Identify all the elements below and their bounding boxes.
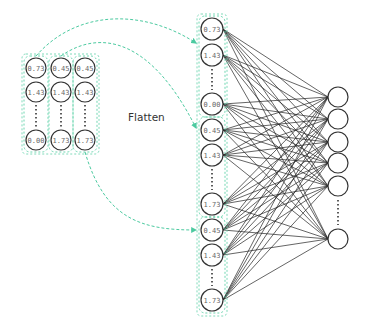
neuron-value: 0.45 xyxy=(77,65,94,73)
neuron-circle xyxy=(328,109,348,129)
input-neuron: 0.73 xyxy=(26,58,46,78)
neuron-value: 0.45 xyxy=(204,227,221,235)
neuron-value: 1.43 xyxy=(77,89,94,97)
flattened-neuron: 0.73 xyxy=(201,18,223,40)
edge xyxy=(223,104,328,186)
input-neuron: 1.43 xyxy=(75,82,95,102)
flatten-label: Flatten xyxy=(128,111,165,123)
edge xyxy=(223,142,328,230)
neuron-circle xyxy=(328,132,348,152)
neuron-value: 1.43 xyxy=(28,89,45,97)
neuron-value: 1.73 xyxy=(77,137,94,145)
input-neuron: 0.45 xyxy=(75,58,95,78)
input-neuron: 1.73 xyxy=(75,130,95,150)
flattened-neuron: 1.73 xyxy=(201,289,223,311)
flattened-neuron: 0.00 xyxy=(201,93,223,115)
output-neuron xyxy=(328,109,348,129)
fully-connected-edges xyxy=(223,29,328,300)
neuron-circle xyxy=(328,229,348,249)
edge xyxy=(223,142,328,300)
neuron-value: 1.73 xyxy=(204,201,221,209)
neuron-value: 1.43 xyxy=(204,252,221,260)
flattened-neuron: 0.45 xyxy=(201,119,223,141)
flatten-arrow xyxy=(85,152,196,230)
flatten-arrows xyxy=(36,19,196,230)
edge xyxy=(223,142,328,155)
flattened-neuron: 1.73 xyxy=(201,193,223,215)
input-neuron: 0.45 xyxy=(51,58,71,78)
dashed-groups xyxy=(22,14,227,316)
neuron-value: 1.43 xyxy=(204,152,221,160)
input-neuron: 1.73 xyxy=(51,130,71,150)
output-neuron xyxy=(328,132,348,152)
flatten-diagram: 0.731.430.000.451.431.730.451.431.730.73… xyxy=(0,0,368,333)
edge xyxy=(223,155,328,239)
edge xyxy=(223,155,328,186)
output-neuron xyxy=(328,176,348,196)
output-neuron xyxy=(328,87,348,107)
edge xyxy=(223,55,328,142)
neuron-value: 1.73 xyxy=(204,297,221,305)
neuron-value: 0.00 xyxy=(204,101,221,109)
neuron-value: 0.73 xyxy=(204,26,221,34)
neuron-value: 0.73 xyxy=(28,65,45,73)
neuron-circle xyxy=(328,153,348,173)
edge xyxy=(223,29,328,186)
neuron-value: 1.43 xyxy=(204,52,221,60)
input-neuron: 1.43 xyxy=(51,82,71,102)
neuron-value: 1.73 xyxy=(53,137,70,145)
input-neuron: 0.00 xyxy=(26,130,46,150)
neuron-value: 0.45 xyxy=(53,65,70,73)
edge xyxy=(223,29,328,239)
flattened-neuron: 1.43 xyxy=(201,144,223,166)
neuron-value: 1.43 xyxy=(53,89,70,97)
output-neuron xyxy=(328,229,348,249)
neuron-value: 0.45 xyxy=(204,127,221,135)
edge xyxy=(223,55,328,97)
flattened-neuron: 1.43 xyxy=(201,244,223,266)
neuron-circle xyxy=(328,87,348,107)
flatten-arrow xyxy=(36,19,196,56)
neuron-circle xyxy=(328,176,348,196)
input-neuron: 1.43 xyxy=(26,82,46,102)
flattened-neuron: 0.45 xyxy=(201,219,223,241)
flattened-neuron: 1.43 xyxy=(201,44,223,66)
edge xyxy=(223,186,328,300)
neurons: 0.731.430.000.451.431.730.451.431.730.73… xyxy=(26,18,348,311)
output-neuron xyxy=(328,153,348,173)
edge xyxy=(223,29,328,163)
neuron-value: 0.00 xyxy=(28,137,45,145)
